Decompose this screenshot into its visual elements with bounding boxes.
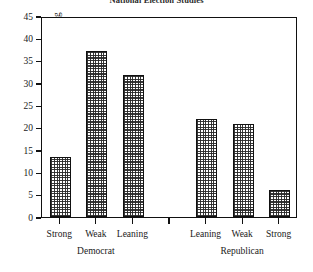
x-axis-category-label: Weak xyxy=(231,228,252,240)
bar xyxy=(86,51,107,217)
y-axis-tick-label: 45 xyxy=(24,11,34,23)
x-axis-category-label: Strong xyxy=(47,228,72,240)
chart-title-clip: National Election Studies xyxy=(0,0,313,7)
y-axis-tick-label: 25 xyxy=(24,100,34,112)
bar xyxy=(233,124,254,217)
y-axis-tick-label: 0 xyxy=(28,212,33,224)
x-axis-tick-mark xyxy=(95,218,96,224)
y-axis-tick-label: 10 xyxy=(24,167,34,179)
bar xyxy=(269,190,290,217)
x-axis-group-label: Republican xyxy=(221,245,264,257)
y-axis-tick-label: 35 xyxy=(24,55,34,67)
y-axis-tick-label: 30 xyxy=(24,78,34,90)
y-axis-tick-label: 5 xyxy=(28,189,33,201)
y-axis-tick-label: 15 xyxy=(24,145,34,157)
chart-figure: National Election Studies Percentage Def… xyxy=(0,0,313,272)
y-axis-tick-label: 40 xyxy=(24,33,34,45)
x-axis-tick-mark xyxy=(205,218,206,224)
x-axis-tick-mark xyxy=(278,218,279,224)
x-axis-tick-mark xyxy=(242,218,243,224)
x-axis-tick-mark xyxy=(168,218,169,224)
x-axis-category-label: Leaning xyxy=(117,228,148,240)
bar xyxy=(196,119,217,217)
x-axis-group-label: Democrat xyxy=(77,245,114,257)
x-axis-tick-mark xyxy=(132,218,133,224)
bar xyxy=(50,157,71,217)
y-axis-tick-label: 20 xyxy=(24,122,34,134)
x-axis-category-label: Weak xyxy=(85,228,106,240)
plot-bars-container xyxy=(42,18,296,217)
x-axis-category-label: Strong xyxy=(266,228,291,240)
x-axis-category-label: Leaning xyxy=(190,228,221,240)
chart-title: National Election Studies xyxy=(0,0,313,5)
bar xyxy=(123,75,144,217)
x-axis-tick-mark xyxy=(59,218,60,224)
plot-area xyxy=(41,17,297,218)
